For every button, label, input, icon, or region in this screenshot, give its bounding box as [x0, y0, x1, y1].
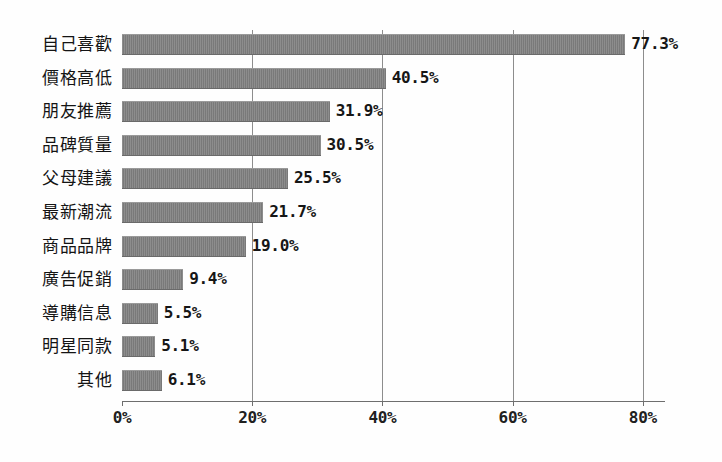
bar-value-label: 9.4%	[189, 267, 226, 291]
footer-note	[362, 443, 714, 457]
bar	[122, 336, 155, 357]
x-axis-line	[122, 401, 665, 402]
x-tick-label: 80%	[629, 408, 657, 427]
category-label-slot: 父母建議	[0, 166, 112, 192]
bar-row: 價格高低40.5%	[0, 65, 722, 99]
bar	[122, 202, 263, 223]
x-tick-label: 40%	[368, 408, 396, 427]
bar-value-label: 5.5%	[164, 301, 201, 325]
x-tick-label: 60%	[499, 408, 527, 427]
bar	[122, 269, 183, 290]
bar-value-label: 5.1%	[161, 334, 198, 358]
bar-row: 最新潮流21.7%	[0, 199, 722, 233]
bar-row: 廣告促銷9.4%	[0, 266, 722, 300]
category-label-slot: 價格高低	[0, 66, 112, 92]
bar-row: 其他6.1%	[0, 367, 722, 401]
bar	[122, 370, 162, 391]
bar	[122, 168, 288, 189]
bar-row: 品碑質量30.5%	[0, 132, 722, 166]
x-tick-label: 20%	[238, 408, 266, 427]
bar-row: 自己喜歡77.3%	[0, 31, 722, 65]
x-tick-mark	[643, 401, 644, 406]
bar	[122, 236, 246, 257]
x-tick-label: 0%	[113, 408, 132, 427]
category-label: 朋友推薦	[0, 99, 112, 125]
x-tick-mark	[382, 401, 383, 406]
category-label-slot: 商品品牌	[0, 234, 112, 260]
category-label: 品碑質量	[0, 133, 112, 159]
bar-value-label: 6.1%	[168, 368, 205, 392]
bar-value-label: 77.3%	[631, 32, 678, 56]
bar-value-label: 21.7%	[269, 200, 316, 224]
category-label: 父母建議	[0, 166, 112, 192]
bar-value-label: 40.5%	[392, 66, 439, 90]
bar-value-label: 31.9%	[336, 99, 383, 123]
bar-chart-figure: 0%20%40%60%80% 自己喜歡77.3%價格高低40.5%朋友推薦31.…	[0, 0, 722, 462]
bar-row: 明星同款5.1%	[0, 333, 722, 367]
bar-value-label: 19.0%	[252, 234, 299, 258]
category-label-slot: 朋友推薦	[0, 99, 112, 125]
bar	[122, 68, 386, 89]
bar-row: 導購信息5.5%	[0, 300, 722, 334]
bar	[122, 34, 625, 55]
bar-rows: 自己喜歡77.3%價格高低40.5%朋友推薦31.9%品碑質量30.5%父母建議…	[0, 31, 722, 401]
category-label-slot: 導購信息	[0, 301, 112, 327]
bar	[122, 101, 330, 122]
x-tick-mark	[513, 401, 514, 406]
bar-row: 朋友推薦31.9%	[0, 98, 722, 132]
bar	[122, 303, 158, 324]
category-label-slot: 其他	[0, 368, 112, 394]
x-tick-mark	[122, 401, 123, 406]
category-label-slot: 明星同款	[0, 334, 112, 360]
category-label-slot: 廣告促銷	[0, 267, 112, 293]
bar	[122, 135, 321, 156]
bar-row: 商品品牌19.0%	[0, 233, 722, 267]
category-label-slot: 自己喜歡	[0, 32, 112, 58]
category-label-slot: 品碑質量	[0, 133, 112, 159]
bar-row: 父母建議25.5%	[0, 165, 722, 199]
category-label: 其他	[0, 368, 112, 394]
category-label: 明星同款	[0, 334, 112, 360]
category-label: 價格高低	[0, 66, 112, 92]
category-label: 廣告促銷	[0, 267, 112, 293]
x-tick-mark	[252, 401, 253, 406]
bar-value-label: 25.5%	[294, 166, 341, 190]
category-label: 最新潮流	[0, 200, 112, 226]
bar-value-label: 30.5%	[327, 133, 374, 157]
category-label: 導購信息	[0, 301, 112, 327]
category-label: 商品品牌	[0, 234, 112, 260]
category-label: 自己喜歡	[0, 32, 112, 58]
category-label-slot: 最新潮流	[0, 200, 112, 226]
